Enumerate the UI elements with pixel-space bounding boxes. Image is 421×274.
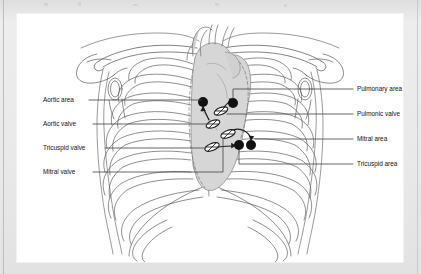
label-tricuspid-area: Tricuspid area bbox=[357, 160, 398, 168]
anatomy-diagram: Aortic area Aortic valve Tricuspid valve… bbox=[17, 14, 403, 262]
aortic-area-point bbox=[198, 97, 208, 107]
label-aortic-valve: Aortic valve bbox=[43, 120, 76, 127]
leader-tricuspid-area bbox=[239, 150, 353, 164]
label-aortic-area: Aortic area bbox=[43, 96, 74, 103]
tricuspid-area-point bbox=[234, 140, 244, 150]
label-pulmonary-area: Pulmonary area bbox=[357, 85, 403, 93]
label-mitral-valve: Mitral valve bbox=[43, 168, 76, 175]
scan-speckle bbox=[78, 2, 81, 6]
figure-page: Aortic area Aortic valve Tricuspid valve… bbox=[0, 0, 421, 274]
heart-silhouette bbox=[189, 43, 251, 191]
figure-plate: Aortic area Aortic valve Tricuspid valve… bbox=[17, 14, 403, 262]
label-mitral-area: Mitral area bbox=[357, 135, 388, 142]
scan-speckle bbox=[284, 4, 287, 7]
scan-speckle bbox=[44, 3, 48, 6]
label-tricuspid-valve: Tricuspid valve bbox=[43, 144, 86, 152]
page-frame-edge-left bbox=[3, 0, 4, 274]
label-pulmonic-valve: Pulmonic valve bbox=[357, 110, 400, 117]
mitral-area-point bbox=[246, 140, 256, 150]
pulmonary-area-point bbox=[228, 98, 238, 108]
scan-speckle bbox=[133, 4, 138, 6]
scan-speckle bbox=[215, 3, 219, 6]
scapula-left bbox=[76, 54, 127, 119]
scapula-right bbox=[293, 54, 344, 119]
ribcage-left bbox=[103, 58, 205, 262]
page-frame-edge-right bbox=[417, 0, 418, 274]
